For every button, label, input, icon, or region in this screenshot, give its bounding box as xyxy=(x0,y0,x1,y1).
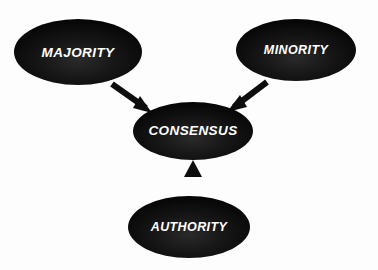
arrow-minority-to-consensus xyxy=(227,82,267,112)
consensus-diagram: MAJORITY MINORITY CONSENSUS AUTHORITY xyxy=(0,0,378,270)
node-consensus[interactable]: CONSENSUS xyxy=(133,102,253,160)
node-majority[interactable]: MAJORITY xyxy=(14,19,142,85)
diagram-canvas: MAJORITY MINORITY CONSENSUS AUTHORITY xyxy=(0,0,378,270)
arrow-majority-to-consensus xyxy=(112,84,152,113)
node-minority[interactable]: MINORITY xyxy=(236,19,356,81)
arrow-authority-to-consensus xyxy=(184,160,202,200)
node-majority-label: MAJORITY xyxy=(42,45,117,60)
node-consensus-label: CONSENSUS xyxy=(148,123,237,138)
node-authority[interactable]: AUTHORITY xyxy=(128,196,250,258)
node-authority-label: AUTHORITY xyxy=(150,220,229,234)
node-minority-label: MINORITY xyxy=(264,43,330,57)
